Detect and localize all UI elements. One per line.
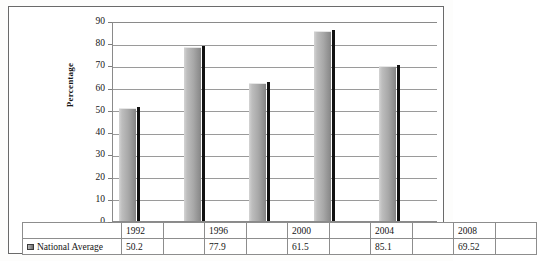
table-year-1996: 1996 xyxy=(205,223,247,239)
table-gap-cell xyxy=(246,223,288,239)
bar-shadow xyxy=(267,82,270,221)
y-axis-title: Percentage xyxy=(65,40,75,130)
bar-shadow xyxy=(137,107,140,221)
plot-area xyxy=(112,22,437,222)
y-axis-tick-label: 70 xyxy=(79,61,105,71)
table-gap-cell xyxy=(412,223,454,239)
table-value-1992: 50.2 xyxy=(122,239,164,255)
legend-cell: National Average xyxy=(23,239,122,255)
table-value-1996: 77.9 xyxy=(205,239,247,255)
table-value-2008: 69.52 xyxy=(454,239,496,255)
bar-2004[interactable] xyxy=(314,31,331,221)
y-axis-tick-label: 90 xyxy=(79,17,105,27)
y-axis-tick-label: 30 xyxy=(79,150,105,160)
bar-2000[interactable] xyxy=(249,83,266,221)
table-year-2004: 2004 xyxy=(371,223,413,239)
bar-2008[interactable] xyxy=(379,66,396,221)
y-axis-tick-mark xyxy=(108,133,112,134)
gridline xyxy=(113,45,437,46)
data-table: 19921996200020042008 National Average 50… xyxy=(22,222,537,255)
y-axis-tick-label: 40 xyxy=(79,128,105,138)
table-gap-cell xyxy=(246,239,288,255)
y-axis-tick-mark xyxy=(108,200,112,201)
y-axis-tick-labels: 9080706050403020100 xyxy=(80,22,108,222)
table-value-2000: 61.5 xyxy=(288,239,330,255)
table-gap-cell xyxy=(163,239,205,255)
table-value-2004: 85.1 xyxy=(371,239,413,255)
table-corner-blank xyxy=(23,223,122,239)
table-year-2008: 2008 xyxy=(454,223,496,239)
y-axis-tick-mark xyxy=(108,22,112,23)
bar-shadow xyxy=(202,46,205,221)
table-gap-cell xyxy=(412,239,454,255)
table-gap-cell xyxy=(495,223,537,239)
bar-1992[interactable] xyxy=(119,108,136,221)
y-axis-tick-label: 50 xyxy=(79,106,105,116)
bar-shadow xyxy=(332,30,335,221)
table-gap-cell xyxy=(329,239,371,255)
y-axis-tick-mark xyxy=(108,111,112,112)
y-axis-tick-mark xyxy=(108,44,112,45)
y-axis-tick-mark xyxy=(108,155,112,156)
table-year-2000: 2000 xyxy=(288,223,330,239)
y-axis-tick-mark xyxy=(108,178,112,179)
y-axis-tick-label: 60 xyxy=(79,84,105,94)
bar-1996[interactable] xyxy=(184,47,201,221)
y-axis-tick-label: 10 xyxy=(79,195,105,205)
table-gap-cell xyxy=(495,239,537,255)
y-axis-tick-label: 80 xyxy=(79,39,105,49)
bar-shadow xyxy=(397,65,400,221)
series-color-swatch-icon xyxy=(27,244,34,250)
y-axis-tick-mark xyxy=(108,66,112,67)
y-axis-tick-mark xyxy=(108,89,112,90)
table-row-years: 19921996200020042008 xyxy=(23,223,537,239)
table-row-values: National Average 50.277.961.585.169.52 xyxy=(23,239,537,255)
y-axis-tick-mark xyxy=(108,222,112,223)
y-axis-tick-label: 20 xyxy=(79,173,105,183)
table-gap-cell xyxy=(329,223,371,239)
table-year-1992: 1992 xyxy=(122,223,164,239)
table-gap-cell xyxy=(163,223,205,239)
legend-series-label: National Average xyxy=(37,242,103,252)
